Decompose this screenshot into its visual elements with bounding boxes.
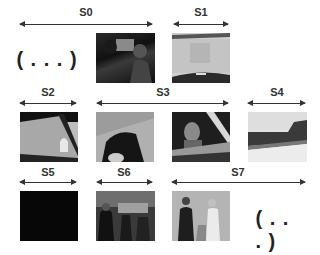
keyframe-image-icon (172, 191, 230, 241)
shot-label-s2: S2 (41, 86, 54, 98)
keyframe-s2 (20, 112, 78, 162)
shot-label-s6: S6 (117, 166, 130, 178)
shot-label-s7: S7 (231, 166, 244, 178)
keyframe-image-icon (96, 191, 155, 241)
shot-span-arrow-s0 (20, 24, 152, 25)
keyframe-s7 (172, 191, 230, 241)
keyframe-image-icon (172, 33, 230, 83)
keyframe-s3a (96, 112, 154, 162)
ellipsis-start: ( . . . ) (16, 48, 77, 71)
keyframe-s0 (96, 33, 155, 83)
ellipsis-end: ( . . . ) (256, 207, 299, 253)
shot-label-s1: S1 (194, 6, 207, 18)
shot-span-arrow-s7 (172, 182, 305, 183)
shot-span-arrow-s1 (174, 24, 228, 25)
keyframe-s6 (96, 191, 155, 241)
shot-label-s0: S0 (79, 6, 92, 18)
keyframe-s1 (172, 33, 230, 83)
keyframe-image-icon (172, 112, 230, 162)
shot-span-arrow-s4 (248, 103, 305, 104)
keyframe-image-icon (96, 33, 155, 83)
keyframe-image-icon (248, 112, 307, 162)
shot-span-arrow-s5 (20, 182, 76, 183)
shot-label-s5: S5 (41, 166, 54, 178)
keyframe-s4 (248, 112, 307, 162)
keyframe-s5 (20, 191, 78, 241)
shot-label-s4: S4 (270, 86, 283, 98)
keyframe-image-icon (20, 112, 78, 162)
keyframe-s3b (172, 112, 230, 162)
shot-span-arrow-s3 (97, 103, 228, 104)
shot-span-arrow-s6 (97, 182, 152, 183)
keyframe-image-icon (96, 112, 154, 162)
shot-span-arrow-s2 (20, 103, 76, 104)
shot-label-s3: S3 (156, 86, 169, 98)
